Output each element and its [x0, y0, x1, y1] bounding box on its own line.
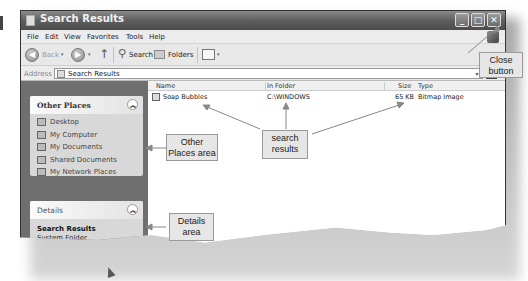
cell-folder: C:\WINDOWS — [267, 93, 310, 101]
menu-tools[interactable]: Tools — [126, 33, 143, 41]
place-my-documents[interactable]: My Documents — [30, 141, 143, 154]
details-area-callout: Details area — [169, 213, 214, 241]
search-icon[interactable]: ⚲ — [118, 47, 126, 60]
menu-edit[interactable]: Edit — [45, 33, 59, 41]
callout-line: area — [170, 227, 213, 238]
toolbar-separator — [113, 47, 114, 63]
other-places-title: Other Places — [37, 101, 91, 110]
table-row[interactable]: Soap Bubbles C:\WINDOWS 65 KB Bitmap Ima… — [148, 92, 505, 102]
views-dropdown-icon[interactable]: ▾ — [217, 51, 220, 57]
callout-line: button — [480, 66, 522, 77]
maximize-button[interactable]: □ — [471, 13, 485, 27]
window-title: Search Results — [40, 13, 124, 24]
back-icon[interactable]: ◀ — [25, 48, 39, 62]
menu-file[interactable]: File — [27, 33, 39, 41]
cell-name: Soap Bubbles — [163, 93, 207, 101]
back-button-label[interactable]: Back — [42, 51, 59, 59]
column-size[interactable]: Size — [398, 82, 411, 90]
forward-dropdown-icon[interactable]: ▾ — [88, 51, 91, 57]
menu-view[interactable]: View — [64, 33, 81, 41]
details-name: Search Results — [37, 225, 96, 233]
search-results-icon — [57, 70, 65, 78]
windows-logo-icon — [487, 31, 499, 43]
forward-icon[interactable]: ▶ — [71, 48, 85, 62]
address-value: Search Results — [68, 70, 120, 78]
folder-icon — [37, 143, 46, 151]
callout-line: Places area — [167, 148, 217, 159]
address-input[interactable]: Search Results ▾ — [54, 68, 483, 79]
column-type[interactable]: Type — [418, 82, 433, 90]
place-label: Desktop — [50, 118, 79, 126]
page-marker — [0, 16, 3, 30]
close-button[interactable]: ✕ — [487, 13, 501, 27]
title-bar[interactable]: Search Results _ □ ✕ — [21, 11, 505, 30]
search-button[interactable]: Search — [129, 51, 153, 59]
place-shared-documents[interactable]: Shared Documents — [30, 154, 143, 167]
column-divider — [265, 82, 266, 90]
toolbar-separator — [197, 47, 198, 63]
column-name[interactable]: Name — [156, 82, 175, 90]
search-results-callout: search results — [262, 130, 308, 159]
place-desktop[interactable]: Desktop — [30, 116, 143, 129]
address-bar: Address Search Results ▾ — [21, 66, 505, 81]
column-in-folder[interactable]: In Folder — [267, 82, 295, 90]
place-label: Shared Documents — [50, 156, 117, 164]
minimize-button[interactable]: _ — [455, 13, 469, 27]
task-pane: Other Places ︽ Desktop My Computer My Do… — [21, 81, 148, 260]
bitmap-file-icon — [152, 93, 160, 101]
folders-button[interactable]: Folders — [168, 51, 193, 59]
cell-type: Bitmap Image — [418, 93, 464, 101]
place-my-computer[interactable]: My Computer — [30, 129, 143, 142]
desktop-icon — [37, 118, 46, 126]
column-headers: Name In Folder Size Type — [148, 81, 505, 91]
collapse-icon[interactable]: ︽ — [127, 99, 138, 110]
menu-favorites[interactable]: Favorites — [87, 33, 119, 41]
toolbar: ◀ Back ▾ ▶ ▾ ↑ ⚲ Search Folders ▾ — [21, 44, 505, 66]
folders-icon[interactable] — [154, 50, 165, 59]
other-places-callout: Other Places area — [166, 134, 218, 161]
callout-line: Details — [170, 216, 213, 227]
callout-line: results — [263, 144, 307, 155]
details-header[interactable]: Details ︽ — [30, 201, 143, 219]
place-my-network-places[interactable]: My Network Places — [30, 166, 143, 179]
back-dropdown-icon[interactable]: ▾ — [61, 51, 64, 57]
computer-icon — [37, 131, 46, 139]
column-divider — [384, 82, 385, 90]
place-label: My Documents — [50, 143, 102, 151]
callout-line: search — [263, 133, 307, 144]
menu-help[interactable]: Help — [149, 33, 165, 41]
callout-line: Close — [480, 55, 522, 66]
views-icon[interactable] — [202, 49, 215, 60]
menu-bar: File Edit View Favorites Tools Help — [21, 30, 505, 44]
details-title: Details — [37, 206, 63, 215]
shared-folder-icon — [37, 156, 46, 164]
place-label: My Network Places — [50, 168, 116, 176]
close-button-callout: Close button — [479, 52, 523, 78]
address-label: Address — [24, 70, 52, 78]
network-icon — [37, 168, 46, 176]
search-folder-icon — [26, 15, 35, 26]
other-places-header[interactable]: Other Places ︽ — [30, 96, 143, 114]
place-label: My Computer — [50, 131, 97, 139]
collapse-icon[interactable]: ︽ — [127, 204, 138, 215]
callout-line: Other — [167, 137, 217, 148]
up-folder-icon[interactable]: ↑ — [99, 47, 109, 61]
cell-size: 65 KB — [395, 93, 414, 101]
other-places-panel: Other Places ︽ Desktop My Computer My Do… — [30, 96, 143, 176]
